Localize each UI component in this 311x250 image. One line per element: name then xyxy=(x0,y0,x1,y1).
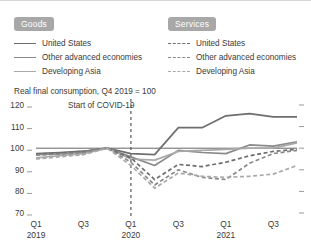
x-axis-tick-label: Q1 xyxy=(30,219,42,229)
x-axis-tick-label: Q1 xyxy=(220,219,232,229)
chart-figure: Goods United States Other advanced econo… xyxy=(0,0,311,250)
x-axis-ticks: Q12019Q3Q12020Q3Q12021Q3 xyxy=(27,219,280,240)
series-lines xyxy=(36,114,297,189)
x-axis-tick-label: Q1 xyxy=(125,219,137,229)
x-axis-year-label: 2021 xyxy=(216,230,235,240)
x-axis-tick-label: Q3 xyxy=(173,219,185,229)
x-axis-tick-label: Q3 xyxy=(268,219,280,229)
x-axis-tick-label: Q3 xyxy=(78,219,90,229)
y-axis-tick-label: 70 xyxy=(15,209,25,218)
y-axis-tick-label: 100 xyxy=(10,144,24,153)
y-axis-tick-label: 90 xyxy=(15,166,25,175)
y-axis-tick-label: 80 xyxy=(15,187,25,196)
plot-area: 120110100908070 Q12019Q3Q12020Q3Q12021Q3 xyxy=(0,1,311,250)
y-axis-tick-label: 120 xyxy=(10,101,24,110)
chart-svg: 120110100908070 Q12019Q3Q12020Q3Q12021Q3 xyxy=(0,1,311,250)
x-axis-year-label: 2019 xyxy=(27,230,46,240)
y-axis-tick-label: 110 xyxy=(11,123,24,132)
x-axis-year-label: 2020 xyxy=(122,230,141,240)
